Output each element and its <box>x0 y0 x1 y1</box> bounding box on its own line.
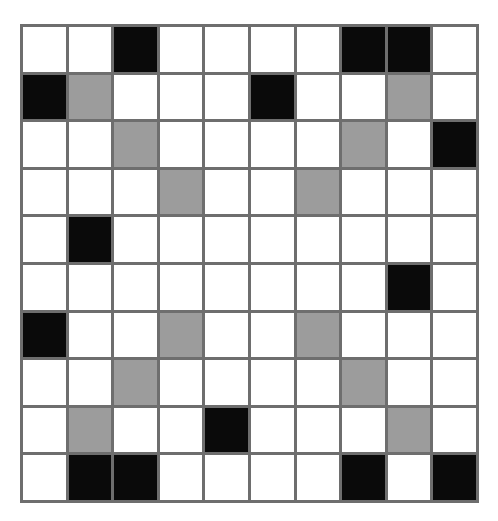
grid-cell-r3-c10[interactable] <box>433 122 476 167</box>
grid-cell-r3-c4[interactable] <box>160 122 203 167</box>
grid-cell-r4-c6[interactable] <box>251 170 294 215</box>
grid-cell-r8-c10[interactable] <box>433 360 476 405</box>
grid-cell-r10-c8[interactable] <box>342 455 385 500</box>
grid-cell-r9-c7[interactable] <box>297 408 340 453</box>
grid-cell-r3-c6[interactable] <box>251 122 294 167</box>
grid-cell-r9-c2[interactable] <box>69 408 112 453</box>
grid-cell-r3-c9[interactable] <box>388 122 431 167</box>
grid-cell-r3-c8[interactable] <box>342 122 385 167</box>
grid-cell-r2-c10[interactable] <box>433 75 476 120</box>
grid-cell-r8-c7[interactable] <box>297 360 340 405</box>
grid-cell-r7-c3[interactable] <box>114 313 157 358</box>
grid-cell-r7-c8[interactable] <box>342 313 385 358</box>
grid-cell-r2-c8[interactable] <box>342 75 385 120</box>
grid-cell-r9-c9[interactable] <box>388 408 431 453</box>
grid-cell-r10-c1[interactable] <box>23 455 66 500</box>
grid-cell-r6-c6[interactable] <box>251 265 294 310</box>
grid-cell-r4-c5[interactable] <box>205 170 248 215</box>
grid-cell-r3-c2[interactable] <box>69 122 112 167</box>
grid-cell-r8-c1[interactable] <box>23 360 66 405</box>
grid-cell-r10-c3[interactable] <box>114 455 157 500</box>
grid-cell-r6-c10[interactable] <box>433 265 476 310</box>
grid-cell-r4-c8[interactable] <box>342 170 385 215</box>
grid-cell-r4-c10[interactable] <box>433 170 476 215</box>
grid-cell-r1-c9[interactable] <box>388 27 431 72</box>
grid-cell-r3-c7[interactable] <box>297 122 340 167</box>
grid-cell-r9-c4[interactable] <box>160 408 203 453</box>
grid-cell-r5-c2[interactable] <box>69 217 112 262</box>
grid-cell-r4-c4[interactable] <box>160 170 203 215</box>
grid-cell-r8-c4[interactable] <box>160 360 203 405</box>
grid-cell-r6-c7[interactable] <box>297 265 340 310</box>
grid-cell-r5-c5[interactable] <box>205 217 248 262</box>
grid-cell-r6-c3[interactable] <box>114 265 157 310</box>
grid-cell-r3-c1[interactable] <box>23 122 66 167</box>
grid-cell-r3-c5[interactable] <box>205 122 248 167</box>
grid-cell-r2-c2[interactable] <box>69 75 112 120</box>
grid-cell-r9-c6[interactable] <box>251 408 294 453</box>
grid-cell-r1-c6[interactable] <box>251 27 294 72</box>
grid-cell-r7-c6[interactable] <box>251 313 294 358</box>
grid-cell-r7-c5[interactable] <box>205 313 248 358</box>
grid-cell-r4-c7[interactable] <box>297 170 340 215</box>
grid-cell-r2-c1[interactable] <box>23 75 66 120</box>
grid-cell-r10-c10[interactable] <box>433 455 476 500</box>
grid-cell-r8-c2[interactable] <box>69 360 112 405</box>
grid-cell-r4-c2[interactable] <box>69 170 112 215</box>
grid-cell-r6-c5[interactable] <box>205 265 248 310</box>
grid-cell-r6-c8[interactable] <box>342 265 385 310</box>
grid-cell-r7-c4[interactable] <box>160 313 203 358</box>
grid-cell-r4-c3[interactable] <box>114 170 157 215</box>
grid-cell-r9-c5[interactable] <box>205 408 248 453</box>
grid-cell-r5-c4[interactable] <box>160 217 203 262</box>
grid-cell-r5-c10[interactable] <box>433 217 476 262</box>
grid-cell-r2-c5[interactable] <box>205 75 248 120</box>
grid-cell-r9-c3[interactable] <box>114 408 157 453</box>
grid-cell-r7-c9[interactable] <box>388 313 431 358</box>
grid-cell-r1-c5[interactable] <box>205 27 248 72</box>
grid-cell-r9-c1[interactable] <box>23 408 66 453</box>
grid-cell-r7-c10[interactable] <box>433 313 476 358</box>
grid-cell-r8-c6[interactable] <box>251 360 294 405</box>
grid-cell-r1-c2[interactable] <box>69 27 112 72</box>
grid-cell-r7-c2[interactable] <box>69 313 112 358</box>
grid-cell-r8-c5[interactable] <box>205 360 248 405</box>
grid-cell-r2-c6[interactable] <box>251 75 294 120</box>
grid-cell-r10-c9[interactable] <box>388 455 431 500</box>
grid-cell-r4-c1[interactable] <box>23 170 66 215</box>
grid-cell-r5-c7[interactable] <box>297 217 340 262</box>
grid-cell-r2-c4[interactable] <box>160 75 203 120</box>
grid-cell-r8-c8[interactable] <box>342 360 385 405</box>
grid-cell-r9-c10[interactable] <box>433 408 476 453</box>
grid-cell-r8-c9[interactable] <box>388 360 431 405</box>
grid-cell-r10-c7[interactable] <box>297 455 340 500</box>
grid-cell-r5-c6[interactable] <box>251 217 294 262</box>
grid-cell-r1-c4[interactable] <box>160 27 203 72</box>
grid-cell-r9-c8[interactable] <box>342 408 385 453</box>
grid-cell-r7-c1[interactable] <box>23 313 66 358</box>
grid-cell-r1-c8[interactable] <box>342 27 385 72</box>
grid-cell-r4-c9[interactable] <box>388 170 431 215</box>
grid-cell-r6-c9[interactable] <box>388 265 431 310</box>
grid-cell-r6-c2[interactable] <box>69 265 112 310</box>
grid-cell-r5-c9[interactable] <box>388 217 431 262</box>
grid-cell-r8-c3[interactable] <box>114 360 157 405</box>
grid-cell-r5-c1[interactable] <box>23 217 66 262</box>
grid-cell-r3-c3[interactable] <box>114 122 157 167</box>
grid-cell-r10-c6[interactable] <box>251 455 294 500</box>
grid-cell-r1-c7[interactable] <box>297 27 340 72</box>
grid-cell-r2-c9[interactable] <box>388 75 431 120</box>
grid-cell-r5-c3[interactable] <box>114 217 157 262</box>
grid-cell-r6-c4[interactable] <box>160 265 203 310</box>
grid-cell-r2-c3[interactable] <box>114 75 157 120</box>
grid-cell-r6-c1[interactable] <box>23 265 66 310</box>
grid-cell-r1-c10[interactable] <box>433 27 476 72</box>
grid-cell-r2-c7[interactable] <box>297 75 340 120</box>
grid-cell-r10-c5[interactable] <box>205 455 248 500</box>
grid-cell-r5-c8[interactable] <box>342 217 385 262</box>
grid-cell-r10-c2[interactable] <box>69 455 112 500</box>
grid-cell-r10-c4[interactable] <box>160 455 203 500</box>
grid-cell-r1-c1[interactable] <box>23 27 66 72</box>
grid-cell-r1-c3[interactable] <box>114 27 157 72</box>
grid-cell-r7-c7[interactable] <box>297 313 340 358</box>
